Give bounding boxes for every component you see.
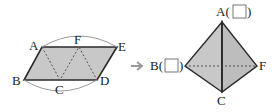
tetra-label-F: F bbox=[259, 58, 266, 73]
net-figure: A F E B C D bbox=[12, 32, 126, 97]
tetra-label-A-close: ) bbox=[247, 4, 251, 19]
blank-box-B[interactable] bbox=[165, 59, 178, 72]
diagram-canvas: A F E B C D A( ) B( ) F C bbox=[0, 0, 276, 112]
net-label-A: A bbox=[29, 38, 39, 53]
net-label-B: B bbox=[12, 73, 21, 88]
net-label-F: F bbox=[74, 32, 81, 47]
tetrahedron-figure: A( ) B( ) F C bbox=[150, 4, 266, 108]
tetra-label-A: A( bbox=[216, 4, 230, 19]
net-label-D: D bbox=[100, 73, 109, 88]
net-label-C: C bbox=[55, 82, 64, 97]
tetra-label-B-close: ) bbox=[179, 58, 183, 73]
net-label-E: E bbox=[118, 39, 126, 54]
tetra-label-C: C bbox=[217, 93, 226, 108]
face-left bbox=[185, 22, 222, 92]
right-arrow-icon bbox=[131, 62, 142, 70]
blank-box-A[interactable] bbox=[233, 5, 246, 18]
tetra-label-B: B( bbox=[150, 58, 163, 73]
face-right bbox=[222, 22, 257, 92]
